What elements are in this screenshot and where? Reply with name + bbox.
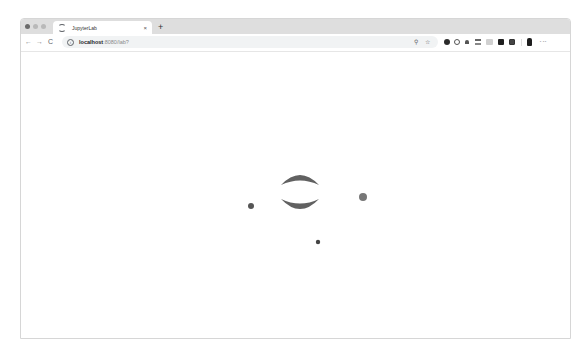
extension-3-icon[interactable]	[465, 40, 469, 44]
extension-1-icon[interactable]	[444, 39, 450, 45]
extension-6-icon[interactable]	[498, 39, 504, 45]
tab-title: JupyterLab	[72, 25, 143, 31]
window-minimize-button[interactable]	[33, 24, 38, 29]
browser-menu-icon[interactable]: ⋮	[542, 38, 545, 44]
url-path: :8080/lab?	[103, 39, 129, 45]
zoom-icon[interactable]: ⚲	[414, 37, 418, 47]
browser-window: JupyterLab × + ← → C i localhost :8080/l…	[20, 18, 571, 339]
address-bar[interactable]: i localhost :8080/lab? ⚲ ☆	[62, 36, 438, 48]
tab-strip: JupyterLab × +	[21, 19, 570, 34]
url-host: localhost	[79, 39, 103, 45]
window-close-button[interactable]	[25, 24, 30, 29]
new-tab-button[interactable]: +	[158, 21, 163, 33]
info-icon[interactable]: i	[67, 39, 74, 46]
forward-button[interactable]: →	[36, 37, 43, 47]
window-maximize-button[interactable]	[41, 24, 46, 29]
toolbar-divider	[521, 39, 522, 46]
back-button[interactable]: ←	[25, 37, 32, 47]
reload-button[interactable]: C	[48, 37, 53, 47]
loading-spinner-icon	[58, 24, 66, 32]
page-content	[21, 52, 570, 338]
bookmark-star-icon[interactable]: ☆	[425, 37, 430, 47]
profile-icon[interactable]	[527, 38, 532, 46]
tab-jupyterlab[interactable]: JupyterLab ×	[53, 21, 152, 34]
tab-close-button[interactable]: ×	[143, 25, 147, 31]
extension-7-icon[interactable]	[509, 39, 515, 45]
extension-4-icon[interactable]	[475, 39, 481, 45]
browser-toolbar: ← → C i localhost :8080/lab? ⚲ ☆ ⋮	[21, 34, 570, 52]
extension-5-icon[interactable]	[486, 39, 493, 45]
extension-2-icon[interactable]	[454, 39, 460, 45]
